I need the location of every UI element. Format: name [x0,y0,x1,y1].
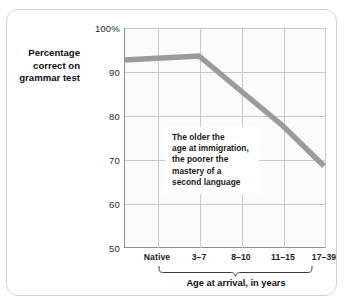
y-axis-title-line-2: correct on [12,60,80,73]
x-tick-17-39: 17–39 [312,252,336,262]
y-tick-60: 60 [80,199,120,210]
brace-path [159,266,312,277]
line-chart-figure: Percentage correct on grammar test 100% … [0,0,344,305]
callout-line-5: second language [172,177,253,188]
gridline-v-17-39 [325,28,326,248]
y-tick-50: 50 [80,243,120,254]
y-tick-100: 100% [80,23,120,34]
y-tick-70: 70 [80,155,120,166]
x-axis-brace [158,266,313,277]
y-tick-80: 80 [80,111,120,122]
x-tick-11-15: 11–15 [271,252,295,262]
x-tick-3-7: 3–7 [192,252,207,262]
callout-line-3: the poorer the [172,154,253,165]
y-axis-tick-labels: 100% 90 80 70 60 50 [78,28,120,248]
callout-line-4: mastery of a [172,166,253,177]
callout-line-1: The older the [172,132,253,143]
x-tick-8-10: 8–10 [231,252,251,262]
x-axis-title: Age at arrival, in years [150,278,322,288]
callout-line-2: age at immigration, [172,143,253,154]
y-axis-title-line-3: grammar test [12,72,80,85]
x-axis-tick-labels: Native 3–7 8–10 11–15 17–39 [124,252,325,266]
y-tick-90: 90 [80,67,120,78]
y-axis-title-line-1: Percentage [12,47,80,60]
x-tick-native: Native [144,252,170,262]
annotation-callout: The older the age at immigration, the po… [165,127,259,194]
y-axis-title: Percentage correct on grammar test [12,47,80,85]
